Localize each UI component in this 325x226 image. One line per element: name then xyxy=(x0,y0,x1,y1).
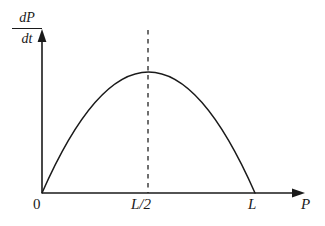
plot-area xyxy=(0,0,325,226)
logistic-growth-rate-figure: dP dt 0 L/2 L P xyxy=(0,0,325,226)
y-axis-label-numerator: dP xyxy=(12,10,42,27)
x-tick-label-origin: 0 xyxy=(33,197,41,212)
x-tick-label-carrying-capacity: L xyxy=(248,197,256,212)
y-axis xyxy=(38,29,47,193)
y-axis-label: dP dt xyxy=(12,10,42,47)
fraction-bar xyxy=(12,28,42,29)
y-axis-label-denominator: dt xyxy=(12,30,42,47)
x-axis-label: P xyxy=(301,197,310,212)
x-axis xyxy=(42,189,305,198)
x-tick-label-midpoint: L/2 xyxy=(131,197,151,212)
